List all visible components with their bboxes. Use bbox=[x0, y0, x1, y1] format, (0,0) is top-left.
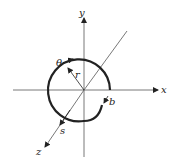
b-label: b bbox=[109, 96, 115, 107]
r-label: r bbox=[75, 69, 81, 80]
z-axis-label: z bbox=[35, 146, 42, 157]
s-label: s bbox=[60, 125, 65, 136]
b-arrow bbox=[104, 96, 108, 103]
theta-label: θ bbox=[56, 57, 62, 68]
spiral-diagram: y x z θ r s b bbox=[0, 0, 173, 164]
x-axis-label: x bbox=[161, 84, 167, 95]
y-axis-label: y bbox=[78, 7, 85, 18]
